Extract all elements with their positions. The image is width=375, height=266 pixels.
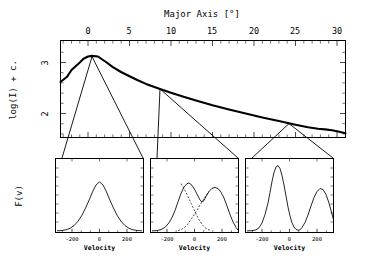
main-xtick-label: 20: [249, 26, 259, 36]
main-ytick-labels: 3 2: [40, 60, 50, 116]
mid-profile-xtick-label: 200: [217, 236, 227, 242]
inner-profile-xtick-label: -200: [65, 236, 78, 242]
mid-profile-xtick-label: 0: [193, 236, 196, 242]
main-axis-ticks: [61, 41, 346, 138]
main-ytick-label: 3: [40, 60, 50, 65]
outer-profile-xtick-labels: -200 0 200: [255, 236, 322, 242]
outer-profile-frame: [246, 159, 334, 233]
mid-profile-frame: [151, 159, 239, 233]
mid-profile-xaxis-title: Velocity: [179, 244, 210, 252]
outer-profile-xtick-label: -200: [255, 236, 268, 242]
mid-profile-red-component-dashed: [178, 191, 209, 230]
astronomy-figure: Major Axis [°] log(I) + c. 0 5 10 15 20 …: [0, 0, 375, 266]
outer-profile-xaxis-title: Velocity: [274, 244, 305, 252]
outer-profile-xtick-label: 0: [288, 236, 291, 242]
main-xtick-labels: 0 5 10 15 20 25 30: [85, 26, 342, 36]
main-yaxis-title: log(I) + c.: [8, 60, 18, 120]
main-xtick-label: 0: [85, 26, 90, 36]
inner-profile-curve: [57, 182, 142, 231]
main-ytick-label: 2: [40, 111, 50, 116]
subpanel-yaxis-title: F(v): [14, 185, 24, 207]
inner-profile-xtick-labels: -200 0 200: [65, 236, 132, 242]
main-xtick-label: 25: [290, 26, 300, 36]
main-xtick-label: 15: [207, 26, 217, 36]
main-xtick-label: 10: [166, 26, 176, 36]
inner-profile-ticks: [56, 159, 144, 233]
mid-profile-curve: [152, 183, 238, 231]
callout-connectors: [62, 57, 333, 158]
outer-profile-xtick-label: 200: [312, 236, 322, 242]
subpanel-outer-profile: -200 0 200 Velocity: [246, 159, 334, 253]
surface-brightness-profile: [61, 56, 346, 133]
subpanel-mid-profile: -200 0 200 Velocity: [151, 159, 239, 253]
callout-line-outer-left: [252, 124, 289, 158]
inner-profile-xtick-label: 200: [122, 236, 132, 242]
outer-profile-ticks: [246, 159, 334, 233]
main-xtick-label: 5: [126, 26, 131, 36]
figure-root: Major Axis [°] log(I) + c. 0 5 10 15 20 …: [0, 0, 375, 266]
outer-profile-curve: [247, 166, 334, 231]
inner-profile-xaxis-title: Velocity: [84, 244, 115, 252]
mid-profile-blue-component-dashed: [181, 184, 211, 231]
inner-profile-xtick-label: 0: [98, 236, 101, 242]
mid-profile-ticks: [151, 159, 239, 233]
subpanel-inner-profile: -200 0 200 Velocity: [56, 159, 144, 253]
callout-line-inner-left: [62, 57, 92, 158]
mid-profile-xtick-label: -200: [160, 236, 173, 242]
main-xtick-label: 30: [332, 26, 342, 36]
main-plot-frame: [61, 41, 346, 138]
main-xaxis-title: Major Axis [°]: [164, 9, 240, 19]
callout-line-inner-right: [92, 57, 143, 158]
mid-profile-xtick-labels: -200 0 200: [160, 236, 227, 242]
main-panel: Major Axis [°] log(I) + c. 0 5 10 15 20 …: [8, 9, 346, 158]
callout-line-mid-right: [160, 89, 238, 158]
callout-line-mid-left: [157, 89, 160, 158]
inner-profile-frame: [56, 159, 144, 233]
